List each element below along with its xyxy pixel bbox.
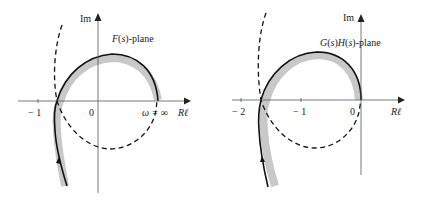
left-figure: Im F(s)-plane − 1 0 ω = ∞ Rℓ xyxy=(18,13,191,193)
nyquist-diagram: Im F(s)-plane − 1 0 ω = ∞ Rℓ Im G(s)H(s)… xyxy=(0,0,424,201)
tick-label-0: 0 xyxy=(89,107,94,118)
real-axis-label: Rℓ xyxy=(177,107,188,118)
plane-label: G(s)H(s)-plane xyxy=(320,37,381,49)
shaded-region xyxy=(263,55,359,186)
tick-label-minus-1: − 1 xyxy=(293,106,306,117)
imag-axis-label: Im xyxy=(343,12,354,23)
real-axis-arrow-icon xyxy=(398,97,405,104)
plane-label: F(s)-plane xyxy=(111,33,154,45)
right-figure: Im G(s)H(s)-plane − 2 − 1 0 Rℓ xyxy=(232,12,405,187)
tick-label-minus-2: − 2 xyxy=(232,106,245,117)
tick-label-minus-1: − 1 xyxy=(28,107,41,118)
imag-axis-arrow-icon xyxy=(95,13,102,21)
real-axis-arrow-icon xyxy=(184,98,191,105)
real-axis-label: Rℓ xyxy=(390,106,401,117)
imag-axis-arrow-icon xyxy=(358,14,365,22)
tick-label-0: 0 xyxy=(350,106,355,117)
omega-infinity-annotation: ω = ∞ xyxy=(142,107,168,118)
imag-axis-label: Im xyxy=(80,13,91,24)
shaded-region xyxy=(57,58,158,186)
